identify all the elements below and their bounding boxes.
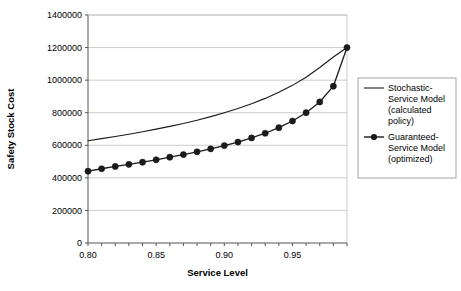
x-tick-label: 0.80 — [79, 250, 97, 260]
legend-sample-marker — [371, 134, 377, 140]
legend-entry-label: (optimized) — [388, 154, 433, 164]
data-point-marker — [180, 151, 186, 157]
data-point-marker — [208, 146, 214, 152]
x-tick-label: 0.85 — [147, 250, 165, 260]
x-tick-label: 0.95 — [284, 250, 302, 260]
data-point-marker — [194, 149, 200, 155]
y-tick-label: 1200000 — [47, 43, 82, 53]
plot-area-background — [88, 15, 347, 243]
data-point-marker — [303, 110, 309, 116]
data-point-marker — [112, 163, 118, 169]
legend-entry-label: (calculated — [388, 105, 432, 115]
chart-container: 0200000400000600000800000100000012000001… — [0, 0, 461, 291]
data-point-marker — [167, 154, 173, 160]
data-point-marker — [317, 99, 323, 105]
y-axis-title: Safety Stock Cost — [5, 88, 16, 170]
data-point-marker — [99, 166, 105, 172]
y-axis-ticks: 0200000400000600000800000100000012000001… — [47, 10, 88, 248]
data-point-marker — [85, 168, 91, 174]
x-axis-tick-labels: 0.800.850.900.95 — [79, 250, 301, 260]
x-axis-title: Service Level — [187, 267, 248, 278]
data-point-marker — [276, 125, 282, 131]
data-point-marker — [330, 83, 336, 89]
data-point-marker — [262, 130, 268, 136]
safety-stock-cost-line-chart: 0200000400000600000800000100000012000001… — [0, 0, 461, 291]
y-tick-label: 200000 — [52, 206, 82, 216]
data-point-marker — [344, 44, 350, 50]
legend-entry-label: policy) — [388, 116, 414, 126]
data-point-marker — [289, 118, 295, 124]
data-point-marker — [126, 161, 132, 167]
data-point-marker — [235, 139, 241, 145]
legend-entry-label: Service Model — [388, 94, 445, 104]
legend: Stochastic-Service Model(calculatedpolic… — [358, 78, 456, 178]
data-point-marker — [139, 159, 145, 165]
data-point-marker — [153, 157, 159, 163]
y-tick-label: 600000 — [52, 140, 82, 150]
data-point-marker — [221, 143, 227, 149]
data-point-marker — [248, 135, 254, 141]
y-tick-label: 1000000 — [47, 75, 82, 85]
legend-entry-label: Stochastic- — [388, 83, 433, 93]
legend-entry-label: Service Model — [388, 143, 445, 153]
y-tick-label: 1400000 — [47, 10, 82, 20]
x-tick-label: 0.90 — [216, 250, 234, 260]
legend-entry-label: Guaranteed- — [388, 132, 439, 142]
y-tick-label: 0 — [77, 238, 82, 248]
y-tick-label: 400000 — [52, 173, 82, 183]
y-tick-label: 800000 — [52, 108, 82, 118]
